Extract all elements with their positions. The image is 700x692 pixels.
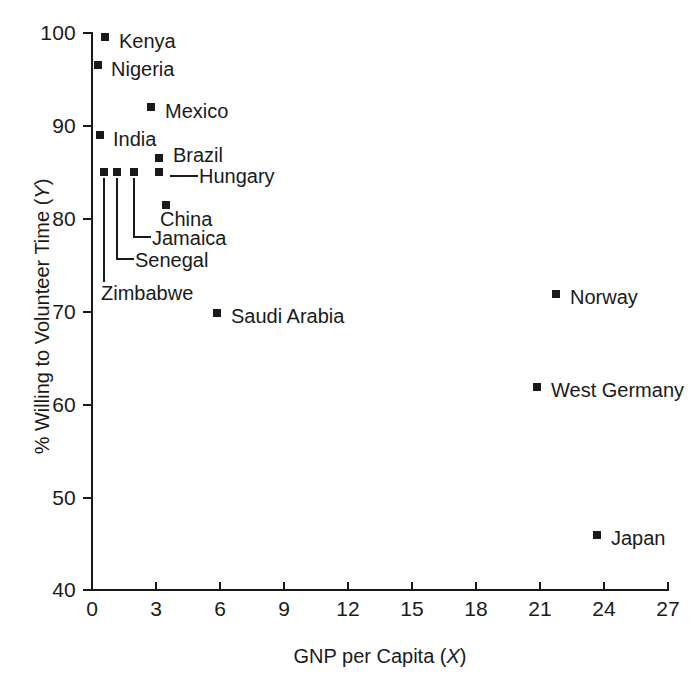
point-label-norway: Norway — [570, 287, 638, 307]
point-label-nigeria: Nigeria — [111, 59, 174, 79]
x-tick-24 — [603, 582, 605, 591]
x-tick-label-12: 12 — [318, 598, 378, 619]
y-axis-title: % Willing to Volunteer Time (Y) — [31, 57, 54, 577]
y-tick-100 — [83, 32, 92, 34]
y-tick-label-100: 100 — [6, 22, 76, 43]
y-axis-title-close: ) — [31, 179, 53, 186]
data-point-zimbabwe — [100, 168, 108, 176]
y-tick-60 — [83, 404, 92, 406]
x-tick-6 — [219, 582, 221, 591]
point-label-saudi-arabia: Saudi Arabia — [231, 306, 344, 326]
point-label-kenya: Kenya — [119, 31, 176, 51]
leader-line-senegal-vertical — [116, 178, 118, 260]
leader-line-senegal-horizontal — [116, 258, 134, 260]
point-label-japan: Japan — [611, 528, 666, 548]
y-tick-90 — [83, 125, 92, 127]
x-tick-label-27: 27 — [638, 598, 698, 619]
data-point-kenya — [101, 33, 109, 41]
x-axis-line — [91, 589, 669, 591]
point-label-zimbabwe: Zimbabwe — [101, 283, 193, 303]
x-tick-label-3: 3 — [126, 598, 186, 619]
data-point-mexico — [147, 103, 155, 111]
x-tick-label-0: 0 — [62, 598, 122, 619]
y-tick-label-40: 40 — [6, 579, 76, 600]
x-tick-27 — [667, 582, 669, 591]
x-axis-title: GNP per Capita (X) — [91, 645, 669, 668]
leader-line-zimbabwe — [103, 178, 105, 282]
data-point-senegal — [113, 168, 121, 176]
x-axis-title-variable: X — [447, 645, 460, 667]
scatter-chart: 100 90 80 70 60 50 40 0 3 6 9 12 15 18 2… — [0, 0, 700, 692]
x-tick-label-24: 24 — [574, 598, 634, 619]
data-point-brazil — [155, 154, 163, 162]
point-label-china: China — [160, 209, 212, 229]
y-tick-80 — [83, 218, 92, 220]
point-label-jamaica: Jamaica — [152, 228, 226, 248]
point-label-mexico: Mexico — [165, 101, 228, 121]
y-axis-title-variable: Y — [31, 185, 53, 198]
y-tick-50 — [83, 497, 92, 499]
data-point-hungary — [155, 168, 163, 176]
x-axis-title-close: ) — [460, 645, 467, 667]
leader-line-jamaica-vertical — [133, 178, 135, 238]
leader-line-jamaica-horizontal — [133, 236, 151, 238]
leader-line-hungary — [170, 175, 198, 177]
point-label-west-germany: West Germany — [551, 380, 684, 400]
data-point-nigeria — [94, 61, 102, 69]
x-tick-3 — [155, 582, 157, 591]
data-point-jamaica — [130, 168, 138, 176]
x-tick-0 — [91, 582, 93, 591]
data-point-india — [96, 131, 104, 139]
point-label-senegal: Senegal — [135, 250, 208, 270]
x-tick-label-15: 15 — [382, 598, 442, 619]
x-tick-label-18: 18 — [446, 598, 506, 619]
data-point-west-germany — [533, 383, 541, 391]
x-tick-label-21: 21 — [510, 598, 570, 619]
x-axis-title-text: GNP per Capita ( — [293, 645, 446, 667]
data-point-norway — [552, 290, 560, 298]
y-axis-title-text: % Willing to Volunteer Time ( — [31, 199, 53, 455]
point-label-india: India — [113, 129, 156, 149]
x-tick-12 — [347, 582, 349, 591]
point-label-hungary: Hungary — [199, 166, 275, 186]
data-point-japan — [593, 531, 601, 539]
x-tick-18 — [475, 582, 477, 591]
x-tick-15 — [411, 582, 413, 591]
x-tick-9 — [283, 582, 285, 591]
point-label-brazil: Brazil — [173, 145, 223, 165]
data-point-saudi-arabia — [213, 309, 221, 317]
y-tick-70 — [83, 311, 92, 313]
x-tick-label-6: 6 — [190, 598, 250, 619]
x-tick-21 — [539, 582, 541, 591]
x-tick-label-9: 9 — [254, 598, 314, 619]
